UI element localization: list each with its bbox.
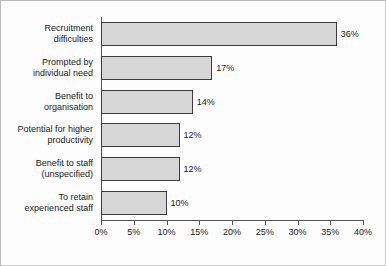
- x-axis-tick-label: 0%: [94, 227, 107, 237]
- x-axis-tick-label: 25%: [256, 227, 274, 237]
- chart-frame: 36%17%14%12%12%10% Recruitment difficult…: [0, 0, 386, 266]
- x-axis-tick: [265, 220, 266, 225]
- category-label: Recruitment difficulties: [44, 23, 93, 45]
- bar-value-label: 36%: [337, 29, 359, 39]
- bar[interactable]: [101, 22, 337, 46]
- bar-value-label: 17%: [212, 63, 234, 73]
- x-axis-tick-label: 15%: [190, 227, 208, 237]
- x-axis-tick: [330, 220, 331, 225]
- x-axis-tick: [363, 220, 364, 225]
- bar[interactable]: [101, 90, 193, 114]
- bar-value-label: 10%: [167, 198, 189, 208]
- x-axis-tick-label: 35%: [321, 227, 339, 237]
- category-label: Benefit to staff (unspecified): [36, 158, 93, 180]
- x-axis-tick: [101, 220, 102, 225]
- bar-value-label: 12%: [180, 164, 202, 174]
- x-axis-tick-label: 10%: [157, 227, 175, 237]
- bar[interactable]: [101, 123, 180, 147]
- x-axis-tick-label: 5%: [127, 227, 140, 237]
- bar-value-label: 12%: [180, 130, 202, 140]
- bar[interactable]: [101, 191, 167, 215]
- x-axis-tick-label: 30%: [288, 227, 306, 237]
- category-label: To retain experienced staff: [25, 192, 93, 214]
- bar-value-label: 14%: [193, 97, 215, 107]
- x-axis-tick: [167, 220, 168, 225]
- x-axis-tick-label: 40%: [354, 227, 372, 237]
- x-axis-tick: [134, 220, 135, 225]
- x-axis-tick: [199, 220, 200, 225]
- bar[interactable]: [101, 157, 180, 181]
- x-axis-tick: [232, 220, 233, 225]
- plot-area: [101, 17, 363, 220]
- x-axis-tick: [298, 220, 299, 225]
- category-label: Prompted by individual need: [33, 57, 93, 79]
- category-label: Potential for higher productivity: [17, 124, 93, 146]
- x-axis-tick-label: 20%: [223, 227, 241, 237]
- category-label: Benefit to organisation: [44, 91, 93, 113]
- bar[interactable]: [101, 56, 212, 80]
